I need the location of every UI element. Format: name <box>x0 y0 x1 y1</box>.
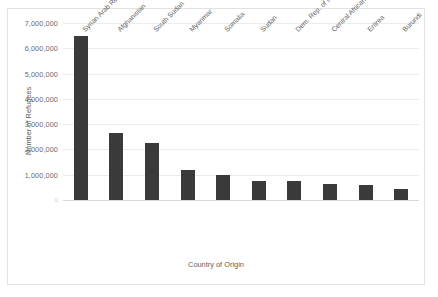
gridline <box>63 124 419 125</box>
y-axis-tick-label: 0 <box>55 197 58 203</box>
bar[interactable] <box>287 181 301 200</box>
axis-baseline <box>63 200 419 201</box>
gridline <box>63 99 419 100</box>
y-axis-tick-label: 7,000,000 <box>25 19 58 28</box>
y-axis-tick-label: 4,000,000 <box>25 94 58 103</box>
gridline <box>63 48 419 49</box>
bar[interactable] <box>394 189 408 200</box>
x-axis-title: Country of Origin <box>8 260 424 269</box>
y-axis-tick-label: 6,000,000 <box>25 44 58 53</box>
bar[interactable] <box>145 143 159 200</box>
y-axis-tick-label: 3,000,000 <box>25 120 58 129</box>
y-axis-tick-label: 2,000,000 <box>25 145 58 154</box>
bar[interactable] <box>252 181 266 200</box>
x-axis-tick-label: South Sudan <box>152 0 185 33</box>
y-axis-tick-label: 5,000,000 <box>25 69 58 78</box>
x-axis-tick-label: Myanmar <box>188 8 213 33</box>
bar[interactable] <box>109 133 123 201</box>
bar[interactable] <box>323 184 337 200</box>
x-axis-tick-label: Somalia <box>223 10 246 33</box>
y-axis-tick-label: 1,000,000 <box>25 170 58 179</box>
gridline <box>63 74 419 75</box>
bar[interactable] <box>74 36 88 200</box>
chart-container: Number of Refugees 01,000,0002,000,0003,… <box>7 8 425 285</box>
bar[interactable] <box>216 175 230 200</box>
plot-area: 01,000,0002,000,0003,000,0004,000,0005,0… <box>63 23 419 200</box>
bar[interactable] <box>181 170 195 200</box>
x-axis-tick-label: Afghanistan <box>116 2 147 33</box>
bar[interactable] <box>359 185 373 200</box>
gridline <box>63 23 419 24</box>
